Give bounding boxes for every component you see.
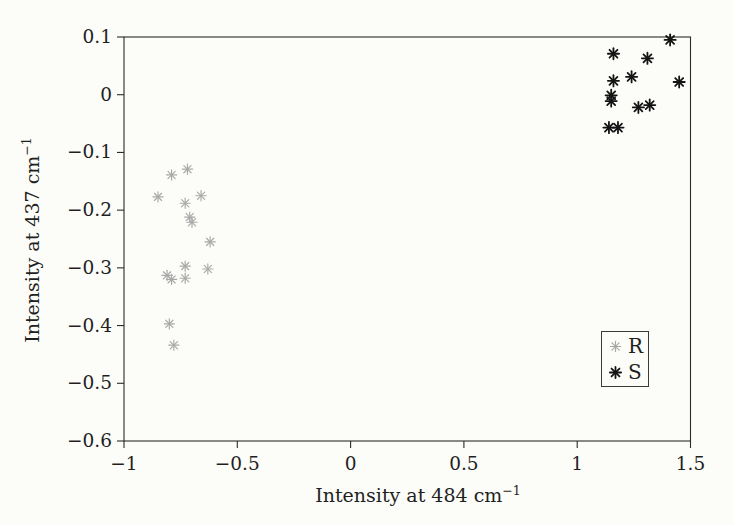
- y-axis-title-text: Intensity at 437 cm: [21, 156, 43, 343]
- data-point-r: [164, 319, 174, 329]
- legend-item-s: S: [608, 360, 648, 384]
- data-point-r: [166, 274, 176, 284]
- y-axis-title-superscript: −1: [19, 137, 34, 155]
- x-axis-tick-label: −0.5: [215, 453, 260, 474]
- x-axis-title-superscript: −1: [502, 483, 520, 498]
- y-axis-tick-label: −0.6: [67, 430, 112, 451]
- y-axis-tick-label: −0.3: [67, 257, 112, 278]
- x-axis-tick-label: 1: [571, 453, 583, 474]
- data-point-r: [169, 340, 179, 350]
- legend: R S: [601, 331, 649, 387]
- data-point-r: [166, 170, 176, 180]
- x-axis-title-text: Intensity at 484 cm: [315, 484, 502, 506]
- data-point-s: [665, 34, 676, 45]
- data-point-s: [608, 48, 619, 59]
- data-point-s: [644, 100, 655, 111]
- data-point-r: [196, 191, 206, 201]
- data-point-s: [633, 102, 644, 113]
- y-axis-title: Intensity at 437 cm−1: [19, 137, 42, 343]
- y-axis-tick-label: −0.5: [67, 372, 112, 393]
- data-point-r: [180, 198, 190, 208]
- data-point-s: [606, 95, 617, 106]
- legend-item-r: R: [608, 334, 648, 358]
- x-axis-tick-label: 0: [345, 453, 357, 474]
- data-point-r: [203, 264, 213, 274]
- x-axis-tick-label: 1.5: [676, 453, 705, 474]
- x-axis-tick-label: −1: [110, 453, 137, 474]
- y-axis-tick-label: 0: [100, 84, 112, 105]
- legend-r-marker-icon: [608, 339, 623, 354]
- data-point-s: [642, 53, 653, 64]
- legend-r-label: R: [628, 336, 643, 356]
- plot-canvas: −1−0.500.511.50.10−0.1−0.2−0.3−0.4−0.5−0…: [0, 0, 734, 525]
- y-axis-tick-label: −0.4: [67, 315, 112, 336]
- x-axis-title: Intensity at 484 cm−1: [315, 483, 521, 506]
- scatter-plot-figure: −1−0.500.511.50.10−0.1−0.2−0.3−0.4−0.5−0…: [0, 0, 734, 525]
- legend-s-label: S: [628, 362, 642, 382]
- data-point-r: [180, 261, 190, 271]
- legend-marker-r: [610, 341, 620, 351]
- x-axis-tick-label: 0.5: [449, 453, 478, 474]
- y-axis-tick-label: −0.2: [67, 199, 112, 220]
- data-point-r: [153, 192, 163, 202]
- data-point-s: [608, 75, 619, 86]
- data-point-r: [180, 273, 190, 283]
- data-point-s: [612, 122, 623, 133]
- data-point-s: [674, 76, 685, 87]
- y-axis-tick-label: 0.1: [83, 26, 112, 47]
- y-axis-tick-label: −0.1: [67, 141, 112, 162]
- legend-marker-s: [610, 366, 621, 377]
- data-point-s: [626, 71, 637, 82]
- data-point-r: [182, 164, 192, 174]
- legend-s-marker-icon: [608, 365, 623, 380]
- data-point-r: [205, 237, 215, 247]
- data-point-r: [187, 217, 197, 227]
